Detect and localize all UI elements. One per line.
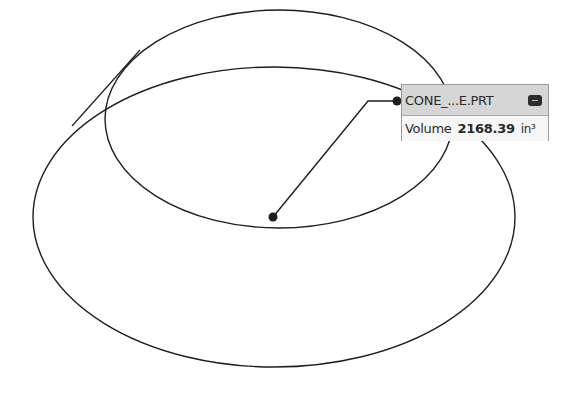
volume-value: 2168.39 (458, 121, 515, 136)
model-geometry[interactable] (0, 0, 575, 397)
volume-label: Volume (405, 121, 452, 136)
centroid-point[interactable] (269, 213, 278, 222)
callout-header[interactable]: CONE_...E.PRT (402, 85, 548, 116)
callout-leader-line (273, 101, 397, 217)
graphics-viewport[interactable]: CONE_...E.PRT Volume 2168.39 in³ (0, 0, 575, 397)
measure-callout[interactable]: CONE_...E.PRT Volume 2168.39 in³ (401, 84, 549, 141)
callout-title: CONE_...E.PRT (405, 93, 528, 108)
silhouette-edge[interactable] (72, 50, 140, 126)
volume-unit: in³ (521, 122, 536, 136)
volume-row: Volume 2168.39 in³ (402, 116, 548, 141)
minimize-icon[interactable] (528, 95, 542, 106)
